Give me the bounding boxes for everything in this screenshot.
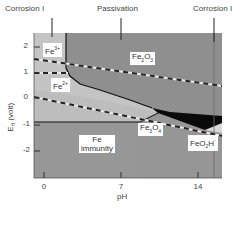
fe-immunity-line2: immunity [81, 144, 113, 153]
y-tick-1: 1 [14, 67, 28, 76]
x-tick-7: 7 [114, 182, 128, 191]
fe-immunity-label: Fe immunity [79, 135, 115, 153]
y-tick-neg1: -1 [16, 119, 30, 128]
fe3o4-sub2: 4 [158, 128, 161, 134]
y-axis-label-suffix: (volt) [6, 103, 15, 123]
x-tick-14: 14 [191, 182, 205, 191]
fe2o3-label: Fe2O3 [130, 52, 155, 65]
fe3-sup: 3+ [54, 45, 60, 51]
x-axis-label: pH [117, 192, 127, 201]
feo2h-sup: - [214, 137, 216, 143]
fe2-base: Fe [53, 82, 62, 91]
y-axis-label-sub: H [10, 123, 16, 127]
y-axis-label: EH (volt) [6, 92, 17, 142]
fe-immunity-line1: Fe [81, 135, 113, 144]
feo2h-base: FeO [190, 139, 206, 148]
fe2-sup: 2+ [62, 80, 68, 86]
x-tick-0: 0 [37, 182, 51, 191]
fe2o3-sub2: 3 [150, 57, 153, 63]
y-axis-label-main: E [6, 126, 15, 131]
fe3-base: Fe [45, 47, 54, 56]
fe3o4-base: Fe [140, 123, 149, 132]
y-tick-2: 2 [14, 41, 28, 50]
fe3-plus-label: Fe3+ [43, 43, 62, 57]
y-tick-neg2: -2 [16, 145, 30, 154]
fe2-plus-label: Fe2+ [51, 78, 70, 92]
fe2o3-base: Fe [132, 52, 141, 61]
feo2h-label: FeO2H- [188, 135, 218, 151]
fe3o4-label: Fe3O4 [138, 123, 163, 136]
